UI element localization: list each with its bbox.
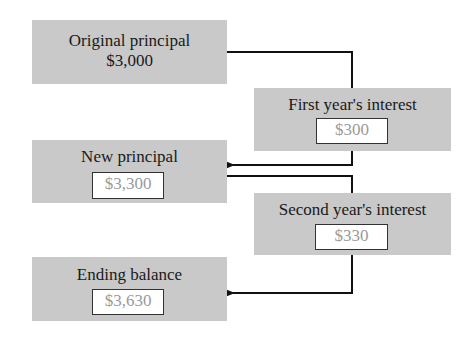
node-value-box: $3,630 [92, 289, 164, 315]
node-label: Second year's interest [254, 200, 451, 220]
node-label: Ending balance [32, 265, 227, 285]
node-value: $3,000 [32, 51, 227, 71]
node-value-box: $3,300 [92, 172, 164, 199]
edge-original-to-first-interest [227, 52, 352, 88]
edge-new-principal-to-second-interest [227, 176, 352, 193]
node-label: First year's interest [254, 95, 451, 115]
node-value-box: $330 [315, 224, 388, 250]
edge-second-interest-to-ending-balance [233, 255, 352, 293]
node-label: New principal [32, 147, 227, 167]
node-value-box: $300 [316, 118, 388, 144]
node-original-principal: Original principal $3,000 [32, 20, 227, 84]
edge-first-interest-to-new-principal [233, 151, 352, 165]
node-label: Original principal [32, 31, 227, 51]
